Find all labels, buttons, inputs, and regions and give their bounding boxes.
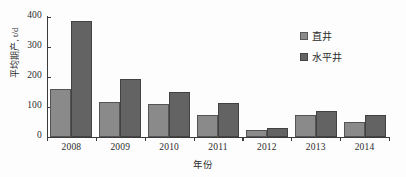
y-tick-label: 300	[0, 40, 42, 50]
x-axis-title: 年份	[0, 157, 406, 171]
bar	[169, 92, 190, 137]
x-tick-mark	[242, 137, 243, 141]
x-tick-mark	[340, 137, 341, 141]
bar-group	[194, 17, 243, 137]
x-tick-mark	[291, 137, 292, 141]
bar	[344, 122, 365, 137]
bar	[316, 111, 337, 137]
bar-group	[47, 17, 96, 137]
x-tick-mark	[389, 137, 390, 141]
x-axis-line	[47, 137, 390, 138]
legend: 直井水平井	[300, 28, 342, 70]
bar	[267, 128, 288, 137]
x-tick-mark	[194, 137, 195, 141]
legend-item: 直井	[300, 28, 342, 43]
bar	[99, 102, 120, 137]
bar-group	[340, 17, 389, 137]
bar	[246, 130, 267, 137]
bar-chart: 平均期产, t/d 0100200300400 2008200920102011…	[0, 0, 406, 177]
bar	[365, 115, 386, 138]
legend-swatch-icon	[300, 53, 308, 61]
legend-label: 水平井	[312, 49, 342, 64]
y-tick-label: 0	[0, 130, 42, 140]
legend-swatch-icon	[300, 32, 308, 40]
bar-group	[242, 17, 291, 137]
y-tick-label: 200	[0, 70, 42, 80]
x-tick-label: 2014	[335, 142, 395, 152]
legend-item: 水平井	[300, 49, 342, 64]
x-tick-mark	[47, 137, 48, 141]
x-tick-mark	[96, 137, 97, 141]
y-tick-label: 400	[0, 10, 42, 20]
y-tick-label: 100	[0, 100, 42, 110]
bar	[218, 103, 239, 137]
x-tick-mark	[145, 137, 146, 141]
bar	[50, 89, 71, 137]
bar	[148, 104, 169, 137]
legend-label: 直井	[312, 28, 332, 43]
bar	[197, 115, 218, 137]
bar	[120, 79, 141, 137]
bar	[71, 21, 92, 137]
bar-group	[96, 17, 145, 137]
bar	[295, 115, 316, 137]
bar-group	[145, 17, 194, 137]
